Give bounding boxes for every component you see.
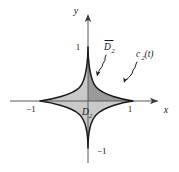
x-tick-label-minus1: −1 bbox=[26, 104, 36, 114]
label-curve-c2t-arg: (t) bbox=[145, 49, 154, 60]
y-tick-label-minus1: −1 bbox=[97, 146, 107, 156]
leader-arrowhead-d2bar-icon bbox=[96, 70, 101, 76]
region-d2bar-dark-fill bbox=[88, 47, 133, 101]
label-curve-c2t-base: c bbox=[136, 49, 141, 59]
label-region-d2bar-base: D bbox=[103, 42, 111, 52]
label-region-d2bar-sub: 2 bbox=[112, 47, 116, 54]
label-region-d2bar: D 2 bbox=[103, 41, 116, 54]
leader-arrow-c2t bbox=[127, 62, 138, 80]
label-curve-c2t: c 2 (t) bbox=[136, 49, 153, 61]
astroid-figure: 1 −1 1 −1 y x D 2 D 2 c 2 (t) bbox=[0, 0, 179, 172]
y-axis-label: y bbox=[73, 5, 79, 16]
leader-arrow-d2bar bbox=[98, 55, 106, 73]
label-region-d2-base: D bbox=[81, 107, 89, 117]
figure-canvas: 1 −1 1 −1 y x D 2 D 2 c 2 (t) bbox=[0, 0, 179, 172]
y-tick-label-1: 1 bbox=[76, 42, 81, 52]
x-tick-label-1: 1 bbox=[128, 104, 133, 114]
x-axis-label: x bbox=[163, 104, 169, 115]
